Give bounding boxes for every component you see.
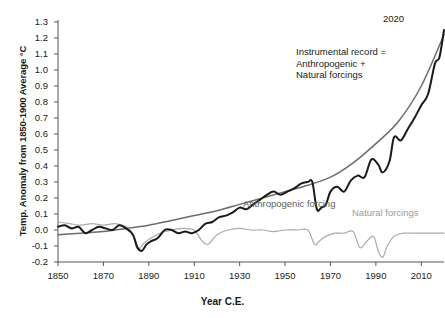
- axis-lines: [58, 20, 444, 262]
- y-tick-label: 1.2: [22, 32, 48, 43]
- y-tick-label: 0.0: [22, 224, 48, 235]
- y-tick-label: 0.9: [22, 80, 48, 91]
- y-tick-label: 1.0: [22, 64, 48, 75]
- y-tick-label: 0.8: [22, 96, 48, 107]
- natural-forcings-label: Natural forcings: [352, 207, 419, 219]
- y-tick-label: 0.3: [22, 176, 48, 187]
- anthropogenic-forcing-label: Anthropogenic forcing: [243, 198, 335, 210]
- y-tick-label: 0.6: [22, 128, 48, 139]
- x-tick-label: 2010: [401, 270, 441, 281]
- x-tick-label: 1910: [174, 270, 214, 281]
- y-tick-label: 1.1: [22, 48, 48, 59]
- x-axis-ticks: [58, 262, 421, 266]
- instrumental-note-line-1: Instrumental record =: [296, 46, 386, 58]
- data-series-group: [58, 30, 444, 257]
- y-tick-label: 0.4: [22, 160, 48, 171]
- x-tick-label: 1970: [310, 270, 350, 281]
- x-tick-label: 1930: [220, 270, 260, 281]
- x-tick-label: 1950: [265, 270, 305, 281]
- y-tick-label: 0.2: [22, 192, 48, 203]
- y-tick-label: 0.7: [22, 112, 48, 123]
- y-tick-label: 0.5: [22, 144, 48, 155]
- x-tick-label: 1890: [129, 270, 169, 281]
- y-tick-label: -0.2: [22, 256, 48, 267]
- climate-attribution-chart: Temp. Anomaly from 1850-1900 Average °C …: [0, 0, 445, 318]
- end-year-annotation: 2020: [383, 13, 404, 25]
- instrumental-record-annotation: Instrumental record = Anthropogenic + Na…: [296, 46, 386, 81]
- y-tick-label: -0.1: [22, 240, 48, 251]
- y-tick-label: 0.1: [22, 208, 48, 219]
- x-axis-label: Year C.E.: [0, 291, 445, 309]
- x-tick-label: 1990: [356, 270, 396, 281]
- x-tick-label: 1850: [38, 270, 78, 281]
- instrumental-note-line-2: Anthropogenic +: [296, 58, 386, 70]
- x-tick-label: 1870: [83, 270, 123, 281]
- x-axis-label-text: Year C.E.: [201, 296, 244, 307]
- y-tick-label: 1.3: [22, 16, 48, 27]
- instrumental-note-line-3: Natural forcings: [296, 69, 386, 81]
